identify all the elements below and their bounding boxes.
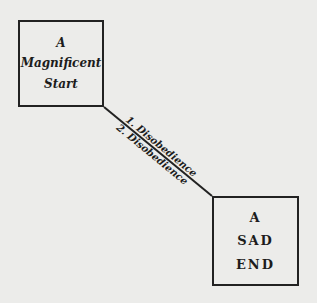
start-box-line: Start (44, 77, 78, 91)
end-box: A SAD END (212, 196, 299, 286)
end-box-line: END (236, 257, 275, 273)
end-box-line: A (249, 210, 261, 226)
start-box-line: Magnificent (21, 56, 102, 70)
start-box-line: A (56, 36, 65, 50)
start-box: A Magnificent Start (18, 20, 104, 107)
end-box-line: SAD (237, 233, 274, 249)
